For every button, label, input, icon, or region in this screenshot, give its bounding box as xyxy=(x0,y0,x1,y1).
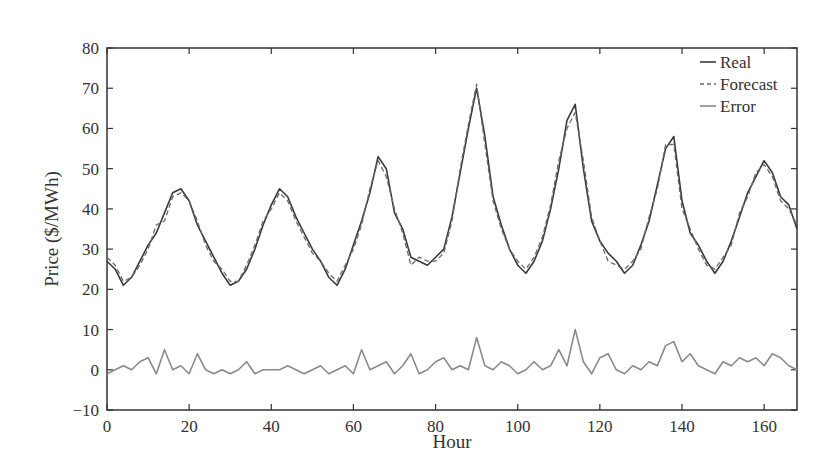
x-tick-label: 140 xyxy=(669,417,695,436)
x-axis-title: Hour xyxy=(432,431,472,452)
y-axis-title: Price ($/MWh) xyxy=(41,171,63,287)
x-tick-label: 40 xyxy=(263,417,280,436)
y-tick-label: 0 xyxy=(91,361,100,380)
y-tick-label: 50 xyxy=(82,160,99,179)
y-tick-label: 20 xyxy=(82,280,99,299)
legend: Real Forecast Error xyxy=(700,53,778,116)
x-tick-label: 120 xyxy=(587,417,613,436)
y-tick-label: 30 xyxy=(82,240,99,259)
series-error-line xyxy=(107,330,797,374)
y-tick-label: −10 xyxy=(72,401,99,420)
x-tick-label: 20 xyxy=(181,417,198,436)
y-tick-label: 80 xyxy=(82,39,99,58)
y-tick-label: 40 xyxy=(82,200,99,219)
plot-area xyxy=(107,48,797,410)
legend-forecast-label: Forecast xyxy=(720,75,778,94)
price-forecast-chart: −1001020304050607080 0204060801001201401… xyxy=(0,0,830,476)
series-layer xyxy=(107,84,797,374)
legend-real-label: Real xyxy=(720,53,751,72)
x-tick-label: 0 xyxy=(103,417,112,436)
y-tick-label: 10 xyxy=(82,321,99,340)
x-tick-label: 100 xyxy=(505,417,531,436)
x-tick-label: 160 xyxy=(751,417,777,436)
x-tick-label: 60 xyxy=(345,417,362,436)
y-tick-label: 60 xyxy=(82,119,99,138)
plot-border xyxy=(107,48,797,410)
y-tick-label: 70 xyxy=(82,79,99,98)
legend-error-label: Error xyxy=(720,97,756,116)
